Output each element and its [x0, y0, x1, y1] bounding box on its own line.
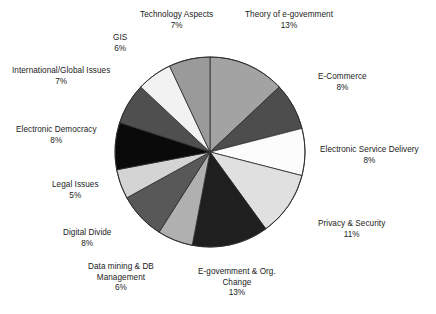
slice-label-theory-of-egovernment: Theory of e-govemment 13% — [245, 10, 333, 31]
slice-label-gis: GIS 6% — [113, 33, 127, 54]
slice-label-value: 6% — [113, 44, 127, 55]
slice-label-value: 11% — [318, 230, 385, 241]
slice-label-egovernment-and-org-change: E-govemment & Org. Change 13% — [198, 267, 276, 299]
pie-chart-figure: Theory of e-govemment 13% E-Commerce 8% … — [0, 0, 436, 314]
slice-label-value: 13% — [198, 288, 276, 299]
slice-label-name-line2: Management — [88, 273, 154, 284]
slice-label-name: Digital Divide — [63, 228, 111, 239]
slice-label-name: Theory of e-govemment — [245, 10, 333, 21]
slice-label-value: 8% — [320, 156, 419, 167]
slice-label-value: 8% — [318, 83, 367, 94]
slice-label-electronic-service-delivery: Electronic Service Delivery 8% — [320, 145, 419, 166]
slice-label-name: International/Global Issues — [12, 66, 110, 77]
slice-label-international-global-issues: International/Global Issues 7% — [12, 66, 110, 87]
slice-label-name: Privacy & Security — [318, 219, 385, 230]
slice-label-electronic-democracy: Electronic Democracy 8% — [16, 125, 97, 146]
slice-label-name-line1: Data mining & DB — [88, 262, 154, 273]
slice-label-value: 13% — [245, 21, 333, 32]
slice-label-name: Technology Aspects — [140, 10, 213, 21]
slice-label-data-mining-and-db-management: Data mining & DB Management 6% — [88, 262, 154, 294]
slice-label-e-commerce: E-Commerce 8% — [318, 72, 367, 93]
slice-label-digital-divide: Digital Divide 8% — [63, 228, 111, 249]
slice-label-name: Legal Issues — [52, 180, 99, 191]
pie-slice-group — [115, 57, 305, 247]
slice-label-technology-aspects: Technology Aspects 7% — [140, 10, 213, 31]
slice-label-name: Electronic Democracy — [16, 125, 97, 136]
slice-label-legal-issues: Legal Issues 5% — [52, 180, 99, 201]
slice-label-value: 7% — [140, 21, 213, 32]
slice-label-value: 5% — [52, 191, 99, 202]
slice-label-privacy-and-security: Privacy & Security 11% — [318, 219, 385, 240]
slice-label-name-line2: Change — [198, 278, 276, 289]
slice-label-value: 7% — [12, 77, 110, 88]
slice-label-value: 8% — [63, 239, 111, 250]
slice-label-name-line1: E-govemment & Org. — [198, 267, 276, 278]
slice-label-name: E-Commerce — [318, 72, 367, 83]
slice-label-name: Electronic Service Delivery — [320, 145, 419, 156]
slice-label-name: GIS — [113, 33, 127, 44]
slice-label-value: 6% — [88, 283, 154, 294]
slice-label-value: 8% — [16, 136, 97, 147]
